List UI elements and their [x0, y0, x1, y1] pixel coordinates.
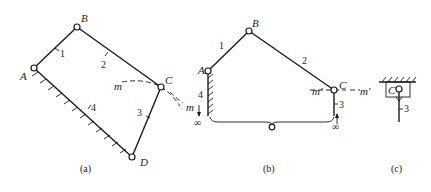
- link-1-a: [34, 27, 77, 68]
- caption-a: (a): [80, 163, 91, 175]
- label-m-prime-b-left: m′: [312, 85, 323, 97]
- label-link-1-b: 1: [219, 40, 224, 51]
- joint-A-b: [205, 68, 211, 74]
- joint-C-c: [396, 86, 402, 92]
- link-2-b: [249, 31, 334, 90]
- label-m-prime-b-right: m′: [360, 85, 371, 97]
- arrow-down-icon: [197, 105, 201, 117]
- infinity-left-b: ∞: [194, 117, 201, 128]
- panel-a: A B C D 1 2 3 4 m (a): [19, 12, 180, 175]
- label-link-2-b: 2: [302, 55, 307, 66]
- ground-hatching-a: [32, 72, 126, 153]
- label-A-b: A: [197, 64, 205, 76]
- panel-b: A B C 1 2 3 4 m m′ m′ ∞ ∞ (b): [170, 17, 371, 175]
- label-link-1-a: 1: [60, 48, 65, 59]
- caption-b: (b): [263, 163, 275, 175]
- ground-hatching-c: [382, 77, 416, 82]
- label-C-c: C: [388, 84, 396, 96]
- pivot-at-infinity-b: [269, 124, 275, 130]
- label-link-4-a: 4: [91, 102, 96, 113]
- label-link-3-b: 3: [339, 99, 344, 110]
- link-2-a: [77, 27, 161, 87]
- label-link-3-a: 3: [137, 107, 142, 118]
- label-D-a: D: [139, 156, 148, 168]
- mechanism-diagram: A B C D 1 2 3 4 m (a): [0, 0, 431, 192]
- label-link-3-c: 3: [404, 103, 409, 114]
- panel-c: C 3 (c): [379, 77, 416, 175]
- brace-b: [210, 117, 334, 124]
- label-m-b: m: [186, 101, 194, 113]
- link-3-a: [132, 87, 161, 157]
- label-C-a: C: [165, 74, 173, 86]
- label-A-a: A: [19, 70, 27, 82]
- trajectory-m-continuation: [170, 92, 183, 103]
- joint-C-b: [331, 87, 337, 93]
- label-B-b: B: [252, 17, 259, 29]
- infinity-right-b: ∞: [332, 121, 339, 132]
- caption-c: (c): [391, 163, 402, 175]
- label-C-b: C: [339, 79, 347, 91]
- ground-hatching-b: [208, 74, 213, 114]
- joint-C-a: [158, 84, 164, 90]
- joint-D-a: [129, 154, 135, 160]
- link-1-b: [208, 31, 249, 71]
- label-m-a: m: [114, 80, 122, 92]
- joint-B-a: [74, 24, 80, 30]
- label-link-2-a: 2: [101, 59, 106, 70]
- label-B-a: B: [81, 12, 88, 24]
- joint-A-a: [31, 65, 37, 71]
- label-link-4-b: 4: [198, 89, 203, 100]
